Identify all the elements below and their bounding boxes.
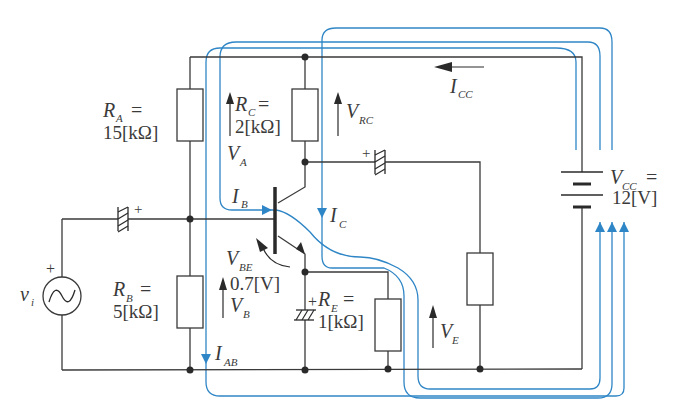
svg-text:C: C (339, 218, 347, 230)
vbe-arrow-icon (256, 238, 268, 252)
vb-arrow-icon (219, 277, 227, 290)
label-ve: V E (440, 320, 459, 346)
label-vi: v i (20, 283, 34, 308)
svg-text:=: = (258, 93, 269, 115)
vcc-current-arrow-icon-2 (607, 222, 617, 232)
resistor-re (375, 299, 401, 351)
svg-text:E: E (451, 334, 459, 346)
bypass-capacitor (294, 310, 316, 320)
svg-text:BE: BE (239, 261, 253, 273)
output-capacitor-plus: + (362, 145, 370, 161)
input-capacitor (118, 207, 128, 232)
svg-text:A: A (239, 156, 247, 168)
label-ra: R A = 15[kΩ] (102, 99, 158, 143)
resistor-ra (177, 89, 203, 141)
svg-text:=: = (646, 166, 657, 188)
resistor-load (467, 253, 493, 305)
svg-text:AB: AB (223, 356, 238, 368)
svg-text:R: R (234, 93, 247, 115)
svg-text:5[kΩ]: 5[kΩ] (113, 301, 159, 322)
svg-text:I: I (231, 185, 240, 207)
svg-text:2[kΩ]: 2[kΩ] (235, 116, 281, 137)
resistor-rb (177, 276, 203, 328)
svg-text:15[kΩ]: 15[kΩ] (103, 122, 158, 143)
va-arrow-icon (226, 92, 234, 104)
vcc-current-arrow-icon-3 (619, 222, 629, 232)
ic-arrow-icon (317, 208, 327, 218)
svg-text:B: B (243, 308, 250, 320)
label-icc: I CC (449, 75, 473, 100)
vrc-arrow-icon (334, 92, 342, 104)
svg-text:12[V]: 12[V] (612, 187, 657, 208)
svg-text:0.7[V]: 0.7[V] (230, 273, 280, 294)
svg-text:RC: RC (358, 114, 374, 126)
current-paths (201, 28, 629, 398)
svg-text:B: B (241, 198, 248, 210)
svg-text:v: v (20, 283, 29, 305)
resistor-rc (292, 89, 318, 141)
battery-vcc (561, 172, 603, 207)
svg-text:=: = (131, 99, 142, 121)
svg-text:I: I (329, 204, 338, 226)
input-capacitor-plus: + (134, 201, 142, 217)
svg-text:+: + (308, 293, 317, 310)
svg-text:I: I (214, 342, 223, 364)
icc-arrow-icon (434, 62, 452, 72)
label-re: + R E = 1[kΩ] (308, 288, 364, 332)
vcc-current-arrow-icon-1 (595, 222, 605, 232)
svg-text:CC: CC (458, 88, 473, 100)
label-va: V A (227, 142, 247, 168)
iab-arrow-icon (201, 354, 211, 364)
label-ic: I C (329, 204, 347, 230)
label-vbe: V BE 0.7[V] (226, 247, 280, 294)
svg-text:I: I (449, 75, 458, 97)
svg-text:1[kΩ]: 1[kΩ] (318, 311, 364, 332)
label-vb: V B (230, 294, 250, 320)
ac-source-vi (43, 277, 81, 315)
svg-text:=: = (343, 288, 354, 310)
svg-text:i: i (31, 296, 34, 308)
source-plus: + (46, 260, 55, 277)
label-iab: I AB (214, 342, 238, 368)
output-capacitor (375, 150, 385, 175)
current-path-ic (322, 28, 612, 398)
ve-arrow-icon (429, 305, 437, 318)
svg-text:R: R (112, 278, 125, 300)
ib-arrow-icon (262, 205, 272, 215)
label-vcc: V CC = 12[V] (610, 166, 657, 208)
transistor-bias-circuit-diagram: + + + (0, 0, 686, 407)
label-ib: I B (231, 185, 248, 210)
svg-text:R: R (102, 99, 115, 121)
svg-text:=: = (140, 278, 151, 300)
emitter-arrow-icon (296, 242, 305, 254)
svg-text:R: R (317, 288, 330, 310)
label-rc: R C = 2[kΩ] (234, 93, 281, 137)
label-vrc: V RC (346, 100, 374, 126)
label-rb: R B = 5[kΩ] (112, 278, 159, 322)
current-path-ib (220, 42, 600, 389)
